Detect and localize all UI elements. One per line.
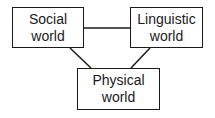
edge-social-physical xyxy=(70,48,91,68)
node-linguistic-world: Linguistic world xyxy=(130,7,203,48)
node-label-line2: world xyxy=(31,28,64,45)
node-physical-world: Physical world xyxy=(77,68,160,110)
node-social-world: Social world xyxy=(12,7,84,48)
edge-linguistic-physical xyxy=(131,48,150,68)
node-label-line2: world xyxy=(150,28,183,45)
node-label-line1: Linguistic xyxy=(137,11,195,28)
node-label-line1: Social xyxy=(29,11,67,28)
node-label-line2: world xyxy=(102,89,135,106)
node-label-line1: Physical xyxy=(92,72,144,89)
